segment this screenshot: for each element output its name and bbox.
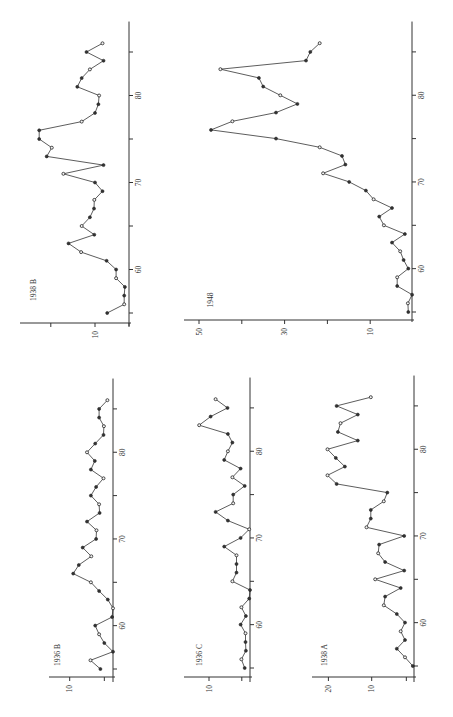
data-point-marker — [275, 111, 278, 114]
data-point-marker — [98, 633, 101, 636]
chart-panel-1938-b: 607080101938 B — [0, 0, 140, 340]
data-point-marker — [240, 606, 243, 609]
data-point-marker — [403, 233, 406, 236]
data-point-marker — [89, 659, 92, 662]
data-point-marker — [244, 632, 247, 635]
data-point-marker — [80, 251, 83, 254]
data-point-marker — [279, 94, 282, 97]
data-point-marker — [85, 51, 88, 54]
data-point-marker — [95, 537, 98, 540]
data-point-marker — [112, 650, 115, 653]
data-point-marker — [248, 528, 251, 531]
data-point-marker — [407, 267, 410, 270]
data-point-marker — [89, 494, 92, 497]
data-point-marker — [231, 441, 234, 444]
year-tick-label: 60 — [134, 266, 143, 274]
year-tick-label: 70 — [255, 534, 264, 542]
data-point-marker — [384, 595, 387, 598]
data-point-marker — [93, 233, 96, 236]
data-point-marker — [105, 259, 108, 262]
data-point-marker — [76, 85, 79, 88]
data-point-marker — [98, 416, 101, 419]
chart-svg: 6070801030501948 — [170, 0, 453, 340]
data-point-marker — [322, 172, 325, 175]
data-point-marker — [223, 545, 226, 548]
data-point-marker — [115, 268, 118, 271]
data-point-marker — [214, 398, 217, 401]
data-point-marker — [77, 564, 80, 567]
data-point-marker — [226, 519, 229, 522]
data-point-marker — [112, 607, 115, 610]
data-point-marker — [239, 467, 242, 470]
data-point-marker — [235, 563, 238, 566]
data-point-marker — [103, 642, 106, 645]
data-point-marker — [344, 163, 347, 166]
data-point-marker — [249, 589, 252, 592]
data-point-marker — [372, 198, 375, 201]
data-point-marker — [226, 406, 229, 409]
data-point-marker — [98, 407, 101, 410]
data-series-line — [73, 400, 113, 669]
data-point-marker — [275, 137, 278, 140]
data-point-marker — [93, 198, 96, 201]
data-point-marker — [404, 656, 407, 659]
chart-panel-1948: 6070801030501948 — [170, 0, 453, 340]
data-point-marker — [240, 658, 243, 661]
data-point-marker — [89, 581, 92, 584]
data-point-marker — [318, 42, 321, 45]
data-point-marker — [403, 569, 406, 572]
data-point-marker — [374, 578, 377, 581]
data-point-marker — [335, 404, 338, 407]
year-tick-label: 80 — [134, 92, 143, 100]
data-point-marker — [102, 433, 105, 436]
data-point-marker — [72, 572, 75, 575]
data-series-line — [211, 43, 412, 312]
data-point-marker — [296, 102, 299, 105]
panel-title: 1948 — [206, 292, 215, 307]
data-point-marker — [318, 146, 321, 149]
data-point-marker — [243, 667, 246, 670]
data-point-marker — [62, 172, 65, 175]
data-point-marker — [80, 120, 83, 123]
data-point-marker — [382, 224, 385, 227]
data-point-marker — [102, 477, 105, 480]
data-series-line — [328, 397, 413, 666]
data-point-marker — [210, 128, 213, 131]
data-point-marker — [257, 76, 260, 79]
data-point-marker — [94, 624, 97, 627]
data-point-marker — [101, 42, 104, 45]
data-point-marker — [123, 303, 126, 306]
data-point-marker — [404, 621, 407, 624]
data-point-marker — [341, 154, 344, 157]
data-point-marker — [123, 285, 126, 288]
data-point-marker — [378, 215, 381, 218]
data-point-marker — [382, 604, 385, 607]
data-point-marker — [111, 616, 114, 619]
data-point-marker — [86, 520, 89, 523]
value-tick-label: 10 — [91, 331, 100, 339]
data-point-marker — [93, 207, 96, 210]
data-point-marker — [411, 665, 414, 668]
panel-title: 1936 B — [53, 644, 62, 666]
chart-svg: 607080101938 B — [0, 0, 140, 340]
data-point-marker — [98, 503, 101, 506]
data-point-marker — [231, 120, 234, 123]
data-point-marker — [80, 225, 83, 228]
data-point-marker — [67, 242, 70, 245]
data-point-marker — [98, 590, 101, 593]
data-point-marker — [399, 587, 402, 590]
chart-svg: 607080101936 C — [140, 360, 290, 717]
data-point-marker — [326, 448, 329, 451]
year-tick-label: 70 — [134, 179, 143, 187]
year-tick-label: 70 — [419, 532, 428, 540]
data-point-marker — [386, 491, 389, 494]
data-point-marker — [45, 155, 48, 158]
panel-title: 1938 A — [320, 643, 329, 665]
data-point-marker — [339, 422, 342, 425]
data-point-marker — [382, 500, 385, 503]
data-point-marker — [209, 415, 212, 418]
year-tick-label: 80 — [419, 445, 428, 453]
year-tick-label: 70 — [118, 535, 127, 543]
data-point-marker — [102, 164, 105, 167]
data-point-marker — [106, 598, 109, 601]
